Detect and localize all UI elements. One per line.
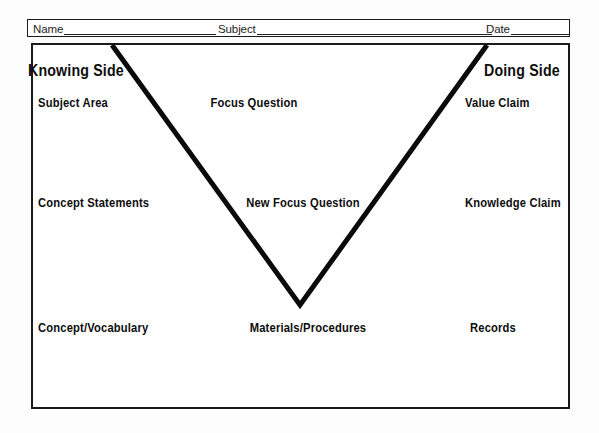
heading-knowing-side: Knowing Side [28,61,124,80]
name-field[interactable]: Name [33,21,216,37]
label-focus-question: Focus Question [211,95,298,110]
date-field-label: Date [486,23,510,35]
heading-doing-side: Doing Side [484,61,560,80]
label-concept-statements: Concept Statements [38,195,149,210]
label-new-focus-question: New Focus Question [246,195,360,210]
subject-field-rule[interactable] [257,23,492,35]
label-knowledge-claim: Knowledge Claim [465,195,561,210]
label-materials-procedures: Materials/Procedures [250,320,367,335]
label-value-claim: Value Claim [465,95,530,110]
name-field-label: Name [33,23,63,35]
label-subject-area: Subject Area [38,95,108,110]
header-field-box: Name Subject Date [27,19,570,37]
subject-field-label: Subject [218,23,256,35]
date-field-rule[interactable] [511,23,569,35]
worksheet-page: Name Subject Date Knowing Side Doing Sid… [0,0,599,433]
subject-field[interactable]: Subject [218,21,492,37]
date-field[interactable]: Date [486,21,569,37]
label-concept-vocabulary: Concept/Vocabulary [38,320,148,335]
name-field-rule[interactable] [64,23,216,35]
label-records: Records [470,320,516,335]
